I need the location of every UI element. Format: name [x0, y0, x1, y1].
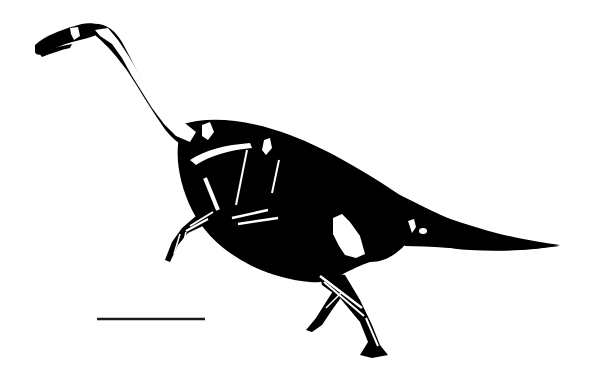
diagram-canvas [0, 0, 590, 390]
body-silhouette [35, 23, 560, 358]
skeletal-reconstruction [0, 0, 590, 390]
